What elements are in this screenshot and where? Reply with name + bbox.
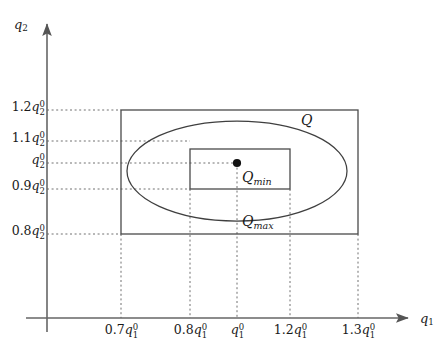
diagram-svg: [0, 0, 446, 360]
x-tick-label-0.7: 0.7q01: [91, 324, 151, 337]
vertical-guide-lines: [121, 163, 358, 318]
region-label-qmin: Qmin: [242, 170, 272, 186]
y-tick-label-0.9: 0.9q02: [0, 180, 44, 193]
region-label-q: Q: [301, 113, 312, 127]
horizontal-guide-lines: [47, 110, 237, 234]
x-tick-label-1.3: 1.3q01: [328, 324, 388, 337]
y-axis-label: q2: [14, 18, 28, 33]
y-tick-label-1.1: 1.1q02: [0, 132, 44, 145]
x-tick-label-1.2: 1.2q01: [260, 324, 320, 337]
y-tick-label-1.2: 1.2q02: [0, 101, 44, 114]
outer-rectangle-qmax: [121, 110, 358, 234]
y-tick-label-0.8: 0.8q02: [0, 225, 44, 238]
nominal-point-marker: [233, 159, 241, 167]
region-label-qmax: Qmax: [242, 214, 274, 230]
y-tick-label-1.0: q02: [0, 154, 44, 167]
figure-canvas: q2 q1 1.2q02 1.1q02 q02 0.9q02 0.8q02 0.…: [0, 0, 446, 360]
x-tick-label-1.0: q01: [210, 324, 264, 337]
x-axis-label: q1: [420, 312, 434, 327]
inner-rectangle-qmin: [190, 149, 290, 189]
